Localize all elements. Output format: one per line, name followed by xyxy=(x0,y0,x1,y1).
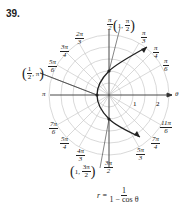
radial-tick-2: 2 xyxy=(156,100,160,108)
point-label-half-pi: (12, π) xyxy=(22,66,44,81)
angle-label-4pi-3: 4π3 xyxy=(76,148,85,163)
point-1-pi-over-2 xyxy=(107,69,110,72)
angle-label-11pi-6: 11π6 xyxy=(160,120,172,135)
point-1-3pi-over-2 xyxy=(107,117,110,120)
angle-label-pi-6: π6 xyxy=(163,58,169,73)
angle-label-5pi-6: 5π6 xyxy=(48,59,57,74)
angle-label-pi-4: π4 xyxy=(153,45,159,60)
point-half-pi xyxy=(95,93,98,96)
angle-label-pi-2: π2 xyxy=(107,17,113,32)
angle-label-pi: π xyxy=(42,91,46,98)
angle-label-7pi-6: 7π6 xyxy=(49,121,58,136)
angle-label-5pi-4: 5π4 xyxy=(60,136,69,151)
axis-label-theta: θ xyxy=(175,91,178,98)
angle-label-2pi-3: 2π3 xyxy=(75,31,84,46)
angle-label-3pi-2: 3π2 xyxy=(104,160,113,175)
angle-label-3pi-4: 3π4 xyxy=(60,44,69,59)
point-label-1-pi-2: (1, π2) xyxy=(113,18,135,33)
curve-equation: r = 11 − cos θ xyxy=(97,187,139,204)
angle-label-pi-3: π3 xyxy=(141,30,147,45)
angle-label-5pi-3: 5π3 xyxy=(136,147,145,162)
radial-tick-1: 1 xyxy=(133,100,137,108)
point-label-1-3pi-2: (1, 3π2) xyxy=(70,164,95,179)
angle-label-7pi-4: 7π4 xyxy=(151,136,160,151)
